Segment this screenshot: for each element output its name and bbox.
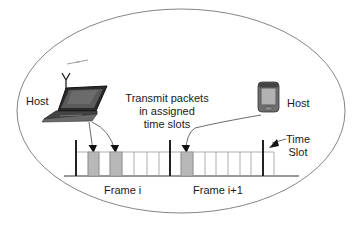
frame-i-plus-1-slots: [181, 152, 274, 176]
host-label-pda: Host: [287, 97, 310, 109]
frame-i-label: Frame i: [104, 184, 141, 196]
time-slot-label: Time Slot: [283, 133, 313, 158]
annotation-line-2: in assigned: [118, 105, 216, 117]
laptop-icon: [42, 60, 107, 122]
annotation-line-1: Transmit packets: [118, 92, 216, 104]
pda-icon: [258, 82, 279, 112]
transmit-annotation: Transmit packets in assigned time slots: [118, 92, 216, 130]
time-slot-line-2: Slot: [283, 146, 313, 158]
annotation-line-3: time slots: [118, 118, 216, 130]
frame-i-plus-1-label: Frame i+1: [193, 184, 243, 196]
frame-i-slots: [88, 152, 159, 176]
arrowhead-icon: [269, 139, 279, 148]
host-label-laptop: Host: [26, 95, 49, 107]
time-slot-line-1: Time: [283, 133, 313, 145]
